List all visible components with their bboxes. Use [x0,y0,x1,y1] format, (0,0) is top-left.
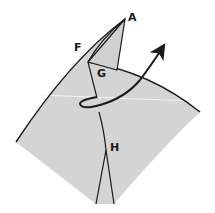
label-g: G [97,68,106,79]
label-f: F [74,42,82,53]
origami-diagram [0,0,215,213]
label-h: H [110,142,119,153]
flap-a [88,19,125,70]
label-a: A [128,12,137,23]
